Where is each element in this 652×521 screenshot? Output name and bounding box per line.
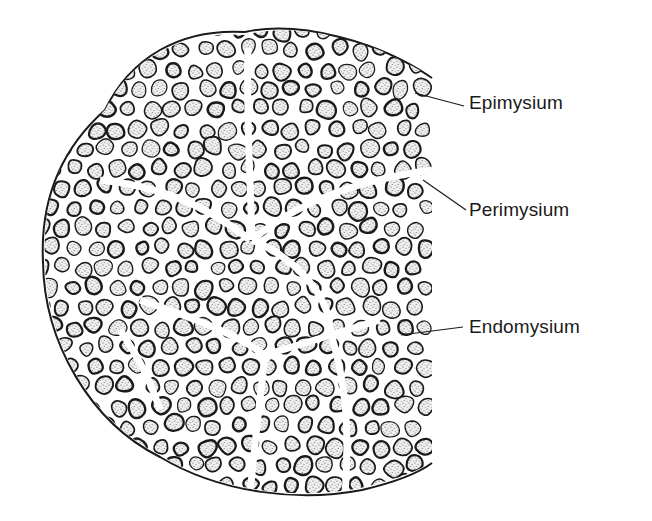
muscle-fiber [65,84,79,98]
muscle-fiber [295,296,310,313]
muscle-fiber [207,63,223,78]
muscle-fiber [372,399,388,414]
muscle-fiber [318,218,333,234]
muscle-fiber [366,421,379,434]
muscle-fiber [359,339,376,357]
muscle-fiber [243,359,259,375]
muscle-fiber [306,44,323,60]
muscle-fiber [296,178,313,194]
muscle-fiber [144,223,159,236]
muscle-fiber [284,42,297,56]
muscle-fiber [233,61,246,75]
muscle-fiber [55,258,70,272]
muscle-fiber [419,43,434,60]
muscle-fiber [205,457,221,471]
muscle-fiber [408,184,423,199]
muscle-fiber [339,21,355,34]
muscle-fiber [44,44,60,59]
muscle-fiber [372,359,384,375]
muscle-fiber [32,259,48,276]
muscle-fiber [120,102,134,115]
muscle-fiber [42,358,57,377]
muscle-fiber [198,398,216,416]
muscle-fiber [28,59,44,77]
muscle-fiber [136,242,148,255]
muscle-fiber [352,440,368,455]
muscle-fiber [274,179,291,194]
muscle-fiber [275,224,288,238]
muscle-fiber [233,417,246,431]
muscle-fiber [338,143,354,160]
muscle-fiber [231,377,246,394]
muscle-fiber [285,478,298,493]
muscle-fiber [68,478,83,492]
label-epimysium: Epimysium [469,92,563,114]
muscle-fiber [228,299,245,316]
muscle-fiber [194,158,212,176]
muscle-fiber [251,261,264,274]
muscle-fiber [296,380,311,396]
muscle-fiber [186,416,200,431]
muscle-fiber [363,296,380,315]
muscle-fiber [398,120,411,135]
muscle-fiber [84,318,101,333]
muscle-fiber [105,42,122,56]
muscle-fiber [299,222,315,236]
muscle-fiber [99,336,113,352]
muscle-fiber [68,160,81,173]
muscle-fiber [186,338,201,352]
muscle-fiber [368,122,385,138]
muscle-fiber [395,396,414,412]
muscle-fiber [207,339,220,353]
muscle-fiber [287,282,300,296]
muscle-fiber [165,380,179,394]
muscle-fiber [232,100,245,113]
muscle-fiber [108,438,125,454]
muscle-fiber [383,342,398,356]
muscle-fiber [212,180,227,197]
muscle-fiber [195,281,212,300]
muscle-fiber [28,454,47,471]
muscle-fiber [262,39,277,54]
muscle-fiber [218,123,236,141]
muscle-fiber [135,200,147,214]
label-perimysium: Perimysium [469,199,569,221]
muscle-fiber [41,123,60,140]
muscle-fiber [261,82,278,98]
muscle-fiber [407,299,422,315]
muscle-fiber [187,381,202,396]
muscle-fiber [85,480,101,494]
muscle-fiber [326,477,343,493]
muscle-fiber [307,436,324,454]
muscle-fiber [118,261,133,276]
muscle-fiber [110,281,126,296]
muscle-fiber [80,343,93,356]
muscle-fiber [175,163,191,178]
muscle-fiber [222,202,237,218]
muscle-fiber [355,82,368,97]
muscle-fiber [336,298,354,315]
muscle-fiber [230,457,245,471]
muscle-fiber [394,438,413,455]
muscle-fiber [359,62,374,78]
muscle-fiber [111,479,128,496]
muscle-fiber [361,139,380,157]
muscle-fiber [285,357,299,374]
muscle-fiber [76,263,92,279]
muscle-fiber [55,301,68,316]
muscle-fiber [75,217,92,235]
muscle-fiber [418,476,434,490]
muscle-fiber [300,99,313,112]
muscle-cross-section-diagram [0,0,652,521]
muscle-fiber [186,21,199,35]
muscle-fiber [327,160,346,178]
muscle-fiber [39,278,57,297]
muscle-fiber [352,360,366,375]
muscle-fiber [211,262,225,274]
muscle-fiber [64,358,78,372]
muscle-fiber [353,120,367,134]
muscle-fiber [374,202,389,215]
muscle-fiber [387,22,400,36]
muscle-fiber [220,242,238,259]
muscle-fiber [353,399,369,416]
